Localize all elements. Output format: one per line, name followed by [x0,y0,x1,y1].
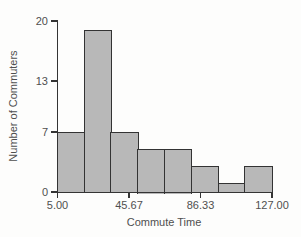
y-tick-label: 20 [20,15,48,27]
histogram-bar [110,132,138,193]
y-axis-title: Number of Commuters [7,50,19,161]
x-tick-label: 5.00 [47,199,68,211]
histogram-bar [191,166,219,193]
histogram-bar [57,132,85,193]
x-tick-mark [271,193,273,199]
x-tick-label: 45.67 [115,199,143,211]
y-tick-mark [51,80,57,82]
histogram-bar [164,149,192,193]
x-tick-label: 86.33 [187,199,215,211]
histogram-figure: Number of Commuters 071320 5.0045.6786.3… [0,0,301,237]
histogram-bar [84,30,112,194]
x-axis-line [57,192,273,194]
y-tick-mark [51,20,57,22]
x-axis-title: Commute Time [127,216,202,228]
y-tick-label: 13 [20,75,48,87]
x-tick-label: 127.00 [255,199,289,211]
x-tick-mark [57,193,59,199]
histogram-bar [137,149,165,193]
x-tick-mark [128,193,130,199]
x-tick-mark [200,193,202,199]
histogram-bar [244,166,272,193]
y-tick-label: 0 [20,186,48,198]
y-tick-mark [51,131,57,133]
y-tick-label: 7 [20,126,48,138]
